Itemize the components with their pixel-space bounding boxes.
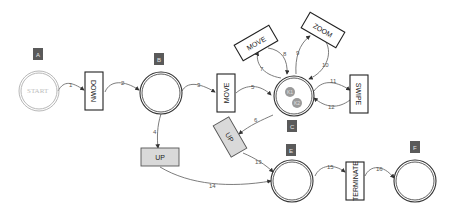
svg-text:10: 10 (322, 62, 329, 68)
svg-text:8: 8 (283, 51, 287, 57)
svg-text:E: E (289, 148, 293, 154)
transition-swipe[interactable]: SWIPE (350, 75, 368, 113)
svg-text:11: 11 (330, 78, 337, 84)
svg-text:13: 13 (255, 159, 262, 165)
svg-text:UP: UP (155, 154, 165, 161)
svg-text:9: 9 (296, 50, 300, 56)
svg-text:F: F (413, 145, 417, 151)
svg-text:A: A (36, 52, 40, 58)
svg-text:DOWN: DOWN (90, 80, 97, 102)
arc-15: 15 (315, 164, 345, 176)
svg-text:TERMINATE: TERMINATE (352, 161, 359, 201)
arc-12: 12 (314, 98, 350, 110)
state-e[interactable]: E (271, 144, 313, 202)
transition-move-1[interactable]: MOVE (217, 74, 235, 112)
state-c[interactable]: K1 K2 C (274, 76, 314, 132)
arc-9: 9 (296, 36, 310, 74)
state-diagram: 1 2 3 4 5 6 7 8 9 10 11 12 (0, 0, 454, 211)
arc-4: 4 (153, 114, 161, 148)
transition-move-2[interactable]: MOVE (234, 25, 278, 61)
svg-text:SWIPE: SWIPE (355, 83, 362, 106)
transition-up-2[interactable]: UP (213, 117, 247, 157)
svg-text:1: 1 (69, 82, 73, 88)
arc-16: 16 (365, 166, 394, 178)
svg-text:14: 14 (209, 183, 216, 189)
arc-2: 2 (105, 80, 139, 92)
svg-text:7: 7 (260, 66, 264, 72)
svg-text:START: START (27, 87, 49, 95)
transition-terminate[interactable]: TERMINATE (346, 161, 364, 201)
arc-6: 6 (239, 115, 273, 134)
transition-up-1[interactable]: UP (141, 148, 179, 166)
svg-text:15: 15 (327, 164, 334, 170)
arc-14: 14 (160, 167, 271, 189)
arc-11: 11 (314, 78, 350, 91)
transition-zoom[interactable]: ZOOM (301, 12, 345, 48)
svg-text:16: 16 (376, 166, 383, 172)
svg-text:MOVE: MOVE (223, 82, 230, 103)
arc-1: 1 (58, 82, 84, 91)
svg-text:K1: K1 (287, 89, 293, 95)
arc-8: 8 (268, 48, 287, 74)
transition-down[interactable]: DOWN (85, 72, 103, 110)
arc-13: 13 (243, 153, 273, 172)
svg-text:B: B (157, 57, 161, 63)
arc-7: 7 (257, 52, 281, 78)
state-a-start[interactable]: A START (19, 48, 59, 111)
state-b[interactable]: B (140, 53, 182, 114)
svg-text:4: 4 (153, 129, 157, 135)
svg-text:12: 12 (328, 104, 335, 110)
state-f[interactable]: F (394, 141, 436, 202)
arc-10: 10 (309, 42, 329, 79)
svg-text:C: C (290, 124, 295, 130)
arc-3: 3 (182, 82, 215, 92)
svg-text:K2: K2 (294, 100, 300, 106)
arc-5: 5 (236, 84, 271, 95)
